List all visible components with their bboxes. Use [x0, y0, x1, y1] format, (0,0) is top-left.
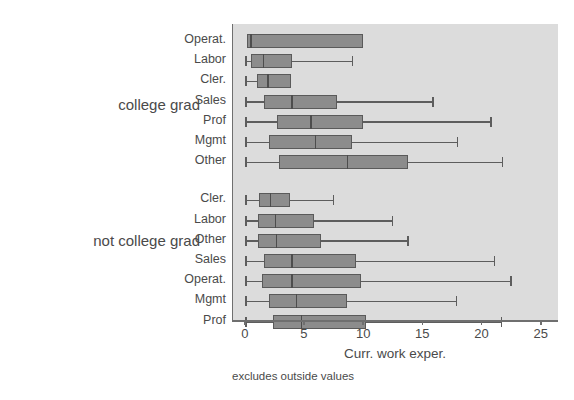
box-iqr: [251, 54, 292, 68]
upper-whisker-cap: [510, 276, 512, 286]
box-plot-row: [233, 113, 559, 131]
x-tick-label: 20: [474, 326, 488, 341]
median-line: [347, 155, 349, 169]
upper-whisker-cap: [352, 56, 354, 66]
category-label: Sales: [195, 253, 226, 265]
box-plot-row: [233, 153, 559, 171]
upper-whisker-cap: [501, 317, 503, 327]
lower-whisker-cap: [245, 236, 247, 246]
median-line: [310, 115, 312, 129]
box-iqr: [258, 214, 314, 228]
box-plot-row: [233, 313, 559, 331]
box-plot-row: [233, 72, 559, 90]
upper-whisker: [361, 281, 510, 283]
category-label: Cler.: [200, 192, 226, 204]
median-line: [275, 214, 277, 228]
x-tick-mark: [481, 320, 483, 325]
lower-whisker: [245, 101, 264, 103]
x-tick-mark: [244, 320, 246, 325]
median-line: [291, 254, 293, 268]
lower-whisker-cap: [245, 195, 247, 205]
lower-whisker: [245, 261, 264, 263]
lower-whisker-cap: [245, 157, 247, 167]
lower-whisker: [245, 81, 257, 83]
upper-whisker-cap: [457, 137, 459, 147]
upper-whisker-cap: [456, 296, 458, 306]
x-tick-mark: [540, 320, 542, 325]
upper-whisker: [352, 142, 457, 144]
upper-whisker-cap: [490, 117, 492, 127]
lower-whisker-cap: [245, 117, 247, 127]
x-axis-line: [232, 320, 558, 322]
median-line: [315, 135, 317, 149]
lower-whisker-cap: [245, 56, 247, 66]
category-label: Mgmt: [195, 134, 226, 146]
upper-whisker: [363, 121, 490, 123]
upper-whisker-cap: [407, 236, 409, 246]
upper-whisker-cap: [392, 216, 394, 226]
box-plot-row: [233, 292, 559, 310]
lower-whisker: [245, 220, 258, 222]
x-tick-label: 0: [241, 326, 248, 341]
lower-whisker: [245, 281, 262, 283]
box-iqr: [258, 234, 321, 248]
lower-whisker: [245, 121, 277, 123]
box-plot-figure: college grad not college grad Operat.Lab…: [0, 0, 574, 400]
lower-whisker: [245, 162, 279, 164]
lower-whisker-cap: [245, 76, 247, 86]
category-label: Prof: [203, 314, 226, 326]
box-iqr: [257, 74, 291, 88]
category-label: Other: [195, 233, 226, 245]
box-iqr: [259, 193, 290, 207]
lower-whisker: [245, 301, 269, 303]
category-label: Cler.: [200, 73, 226, 85]
upper-whisker: [337, 101, 432, 103]
upper-whisker: [314, 220, 392, 222]
lower-whisker: [245, 142, 269, 144]
upper-whisker-cap: [333, 195, 335, 205]
box-iqr: [279, 155, 408, 169]
x-tick-label: 5: [300, 326, 307, 341]
box-plot-row: [233, 52, 559, 70]
median-line: [276, 234, 278, 248]
category-label: Prof: [203, 114, 226, 126]
lower-whisker-cap: [245, 256, 247, 266]
category-label: Operat.: [184, 273, 226, 285]
box-plot-row: [233, 93, 559, 111]
box-iqr: [277, 115, 363, 129]
lower-whisker-cap: [245, 216, 247, 226]
lower-whisker: [245, 200, 259, 202]
median-line: [296, 294, 298, 308]
box-iqr: [269, 294, 347, 308]
box-iqr: [273, 315, 365, 329]
category-label: Other: [195, 154, 226, 166]
lower-whisker-cap: [245, 97, 247, 107]
box-plot-row: [233, 232, 559, 250]
x-tick-mark: [303, 320, 305, 325]
lower-whisker: [245, 240, 258, 242]
median-line: [267, 74, 269, 88]
category-label: Sales: [195, 94, 226, 106]
upper-whisker: [356, 261, 493, 263]
box-plot-row: [233, 191, 559, 209]
median-line: [291, 95, 293, 109]
x-axis-label: Curr. work exper.: [232, 346, 558, 361]
x-tick-mark: [422, 320, 424, 325]
lower-whisker-cap: [245, 137, 247, 147]
category-label: Operat.: [184, 33, 226, 45]
lower-whisker-cap: [245, 296, 247, 306]
category-label: Mgmt: [195, 293, 226, 305]
upper-whisker: [408, 162, 502, 164]
box-iqr: [269, 135, 352, 149]
category-axis-labels: Operat.LaborCler.SalesProfMgmtOtherCler.…: [140, 0, 226, 400]
chart-note: excludes outside values: [232, 370, 354, 382]
upper-whisker: [290, 200, 333, 202]
box-iqr: [247, 34, 363, 48]
upper-whisker: [292, 61, 351, 63]
box-iqr: [264, 254, 356, 268]
plot-area: [232, 24, 558, 320]
box-plot-row: [233, 212, 559, 230]
upper-whisker: [347, 301, 456, 303]
box-plot-row: [233, 32, 559, 50]
x-tick-label: 25: [534, 326, 548, 341]
